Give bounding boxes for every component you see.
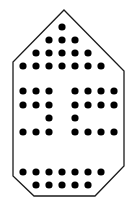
dot-grid bbox=[19, 23, 117, 188]
dot bbox=[110, 128, 117, 135]
dot bbox=[45, 128, 52, 135]
dot bbox=[97, 62, 104, 69]
dot bbox=[45, 62, 52, 69]
dot bbox=[45, 87, 52, 94]
dot bbox=[58, 23, 65, 30]
dot bbox=[84, 49, 91, 56]
dot bbox=[97, 168, 104, 175]
diagram-canvas bbox=[0, 0, 133, 213]
dot bbox=[71, 181, 78, 188]
dot bbox=[32, 181, 39, 188]
dot bbox=[71, 101, 78, 108]
dot bbox=[19, 128, 26, 135]
dot bbox=[32, 87, 39, 94]
hexagonal-outline bbox=[13, 10, 124, 196]
dot bbox=[71, 62, 78, 69]
dot bbox=[97, 87, 104, 94]
dot bbox=[58, 62, 65, 69]
dot bbox=[45, 36, 52, 43]
dot bbox=[71, 168, 78, 175]
dot bbox=[32, 49, 39, 56]
dot bbox=[58, 49, 65, 56]
dot bbox=[71, 49, 78, 56]
dot bbox=[32, 128, 39, 135]
dot bbox=[110, 101, 117, 108]
dot bbox=[32, 168, 39, 175]
dot bbox=[45, 49, 52, 56]
dot bbox=[97, 128, 104, 135]
dot bbox=[84, 101, 91, 108]
dot bbox=[84, 168, 91, 175]
dot bbox=[19, 62, 26, 69]
dot bbox=[71, 114, 78, 121]
dot bbox=[71, 87, 78, 94]
dot bbox=[84, 62, 91, 69]
dot bbox=[58, 36, 65, 43]
dot bbox=[84, 128, 91, 135]
dot bbox=[97, 101, 104, 108]
dot bbox=[45, 101, 52, 108]
dot bbox=[84, 181, 91, 188]
dot bbox=[71, 128, 78, 135]
dot bbox=[45, 181, 52, 188]
dot bbox=[19, 87, 26, 94]
dot bbox=[84, 87, 91, 94]
dot bbox=[32, 101, 39, 108]
dot bbox=[110, 87, 117, 94]
dot bbox=[58, 168, 65, 175]
dot bbox=[19, 101, 26, 108]
dot bbox=[19, 168, 26, 175]
dot bbox=[32, 62, 39, 69]
dot bbox=[71, 36, 78, 43]
dot bbox=[45, 168, 52, 175]
dot bbox=[45, 114, 52, 121]
dot bbox=[58, 181, 65, 188]
dot-pattern-diagram bbox=[0, 0, 133, 213]
